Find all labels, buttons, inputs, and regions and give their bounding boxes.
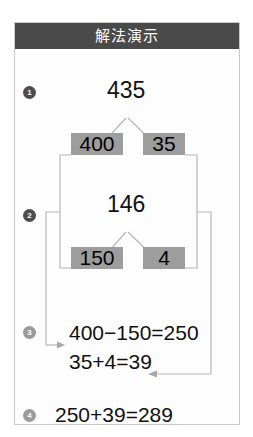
tree-two-root: 146	[107, 191, 145, 218]
step-marker-3: 3	[23, 326, 36, 339]
connector-lines	[15, 49, 241, 437]
tree-one-root: 435	[107, 77, 145, 104]
tree-two-right-child: 4	[143, 247, 185, 269]
step-four-equation-one: 250+39=289	[55, 403, 173, 427]
tree-two-left-child: 150	[71, 247, 123, 269]
card-header: 解法演示	[15, 23, 239, 49]
step-marker-4: 4	[23, 409, 36, 422]
solution-body: 1 435 400 35 2 146 150 4 3 400−150=250 3…	[15, 49, 239, 425]
step-marker-2: 2	[23, 209, 36, 222]
solution-card: 解法演示 1 435 400 35 2 146 150	[14, 22, 240, 425]
tree-one-left-child: 400	[71, 133, 123, 155]
step-three-equation-one: 400−150=250	[69, 321, 199, 345]
tree-one-right-child: 35	[143, 133, 185, 155]
step-marker-1: 1	[23, 86, 36, 99]
page-title: 解法演示	[15, 23, 239, 49]
step-three-equation-two: 35+4=39	[69, 350, 152, 374]
